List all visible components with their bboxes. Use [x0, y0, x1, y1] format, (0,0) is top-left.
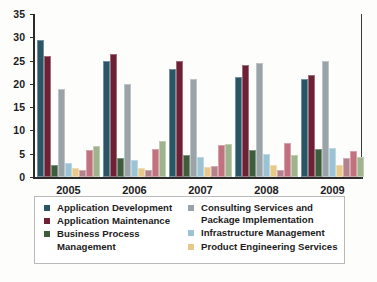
bar [277, 170, 284, 177]
bar [197, 157, 204, 177]
bar [51, 165, 58, 177]
y-axis-tick-label: 15 [3, 102, 25, 112]
legend-label: Product Engineering Services [201, 241, 338, 252]
x-axis-tick-label: 2005 [39, 184, 99, 196]
legend-column-right: Consulting Services and Package Implemen… [187, 202, 345, 254]
bar-group [37, 14, 100, 177]
legend-swatch-icon [188, 205, 194, 211]
y-axis-tick-label: 0 [3, 172, 25, 182]
bar [225, 144, 232, 177]
bar [256, 63, 263, 177]
bar [350, 151, 357, 177]
legend-column-left: Application DevelopmentApplication Maint… [43, 202, 193, 254]
legend-entry: Business Process Management [43, 228, 193, 252]
bar-group [301, 14, 364, 177]
legend-label: Application Development [57, 202, 172, 213]
bar [44, 56, 51, 177]
y-axis-tick-label: 35 [3, 9, 25, 19]
bar-group [103, 14, 166, 177]
x-axis-tick-label: 2007 [171, 184, 231, 196]
y-axis-tick-mark [30, 130, 34, 131]
bar [322, 61, 329, 177]
bar [263, 154, 270, 177]
bar [218, 145, 225, 177]
bar [343, 158, 350, 177]
y-axis-tick-label: 5 [3, 149, 25, 159]
bar [37, 40, 44, 177]
bar [190, 79, 197, 177]
legend-swatch-icon [188, 244, 194, 250]
bar [291, 155, 298, 177]
bar [204, 167, 211, 177]
bar [124, 84, 131, 177]
bar [357, 157, 364, 177]
bar [308, 75, 315, 177]
bar [159, 141, 166, 177]
x-axis-tick-label: 2006 [105, 184, 165, 196]
bar [183, 155, 190, 177]
legend-entry: Product Engineering Services [187, 241, 345, 253]
x-axis-tick-label: 2008 [237, 184, 297, 196]
bar [249, 150, 256, 177]
y-axis-tick-mark [30, 154, 34, 155]
bar [152, 149, 159, 177]
y-axis-tick-mark [30, 37, 34, 38]
bar [93, 146, 100, 177]
legend-label: Consulting Services and Package Implemen… [201, 202, 314, 225]
bar-group [235, 14, 298, 177]
y-axis-tick-mark [30, 177, 34, 178]
bar [103, 61, 110, 177]
bar [110, 54, 117, 177]
legend-swatch-icon [188, 230, 194, 236]
bar [145, 170, 152, 177]
bar [235, 77, 242, 177]
bar [72, 168, 79, 177]
legend-label: Application Maintenance [57, 215, 170, 226]
plot-area: 05101520253035 20052006200720082009 [33, 14, 363, 179]
chart-legend: Application DevelopmentApplication Maint… [34, 196, 345, 264]
bar [131, 160, 138, 177]
bar [58, 89, 65, 177]
bar [211, 166, 218, 177]
y-axis-tick-mark [30, 14, 34, 15]
bar [79, 170, 86, 177]
y-axis-tick-label: 20 [3, 79, 25, 89]
x-axis-tick-label: 2009 [303, 184, 363, 196]
legend-label: Infrastructure Management [201, 227, 325, 238]
bar-group [169, 14, 232, 177]
bar [138, 168, 145, 177]
legend-entry: Application Development [43, 202, 193, 214]
y-axis-tick-label: 10 [3, 125, 25, 135]
bar [284, 143, 291, 177]
bar [86, 150, 93, 177]
y-axis-tick-mark [30, 61, 34, 62]
legend-swatch-icon [44, 231, 50, 237]
bar [336, 165, 343, 177]
bar [65, 163, 72, 177]
legend-entry: Consulting Services and Package Implemen… [187, 202, 345, 226]
y-axis-tick-label: 30 [3, 32, 25, 42]
y-axis-tick-mark [30, 84, 34, 85]
bar [301, 79, 308, 177]
legend-entry: Application Maintenance [43, 215, 193, 227]
x-axis-line [33, 177, 363, 179]
bar-chart-figure: 05101520253035 20052006200720082009 Appl… [0, 0, 377, 282]
legend-swatch-icon [44, 205, 50, 211]
bar [315, 149, 322, 177]
bar [176, 61, 183, 177]
legend-label: Business Process Management [57, 228, 140, 251]
y-axis-tick-label: 25 [3, 56, 25, 66]
legend-swatch-icon [44, 218, 50, 224]
bar [329, 148, 336, 177]
bar [270, 165, 277, 177]
bar [242, 65, 249, 177]
y-axis-tick-mark [30, 107, 34, 108]
bar [117, 158, 124, 177]
legend-entry: Infrastructure Management [187, 227, 345, 239]
bar [169, 69, 176, 177]
